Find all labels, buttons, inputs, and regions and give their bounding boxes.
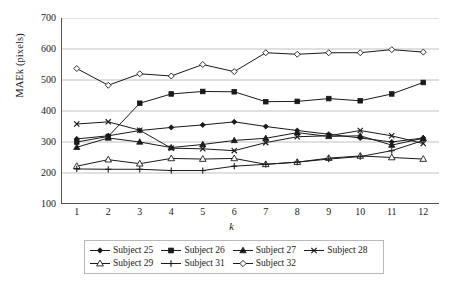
data-point-marker	[231, 163, 237, 169]
legend-item-label: Subject 29	[113, 258, 153, 269]
data-point-marker	[389, 148, 395, 154]
data-point-marker	[389, 47, 395, 53]
x-tick-label: 1	[65, 206, 89, 217]
legend-item-label: Subject 28	[327, 245, 367, 256]
data-point-marker	[200, 89, 205, 94]
x-axis-label: k	[0, 221, 463, 232]
data-point-marker	[232, 89, 237, 94]
legend-item[interactable]: Subject 28	[303, 245, 367, 256]
data-point-marker	[169, 92, 174, 97]
legend-marker-plus-icon	[160, 258, 182, 269]
x-tick-label: 8	[285, 206, 309, 217]
legend-marker-open-triangle-icon	[89, 258, 111, 269]
plot-area	[61, 18, 439, 204]
x-tick-label: 3	[128, 206, 152, 217]
chart-figure: MAEk (pixels) k 100200300400500600700 12…	[0, 0, 463, 286]
legend-marker-filled-triangle-icon	[232, 245, 254, 256]
y-axis-label: MAEk (pixels)	[14, 11, 25, 121]
x-tick-label: 4	[159, 206, 183, 217]
data-point-marker	[421, 80, 426, 85]
y-tick-label: 100	[28, 199, 56, 209]
data-point-marker	[263, 99, 268, 104]
data-point-marker	[295, 99, 300, 104]
series-subject-29	[73, 153, 426, 169]
series-line	[77, 122, 424, 151]
x-tick-label: 9	[317, 206, 341, 217]
data-point-marker	[137, 166, 143, 172]
chart-legend: Subject 25Subject 26Subject 27Subject 28…	[84, 240, 384, 274]
legend-marker-filled-square-icon	[160, 245, 182, 256]
data-point-marker	[137, 71, 143, 77]
y-tick-label: 500	[28, 75, 56, 85]
legend-item-label: Subject 27	[256, 245, 296, 256]
data-point-marker	[231, 69, 237, 75]
data-point-marker	[97, 260, 104, 266]
data-point-marker	[326, 50, 332, 56]
data-point-marker	[240, 260, 246, 266]
data-point-marker	[263, 124, 268, 129]
data-point-marker	[263, 50, 269, 56]
x-tick-label: 5	[191, 206, 215, 217]
legend-item-label: Subject 31	[184, 258, 224, 269]
data-point-marker	[105, 166, 111, 172]
series-subject-32	[74, 47, 427, 89]
legend-item[interactable]: Subject 26	[160, 245, 224, 256]
series-subject-26	[74, 80, 425, 144]
data-point-marker	[326, 156, 332, 162]
y-tick-label: 300	[28, 137, 56, 147]
data-point-marker	[358, 98, 363, 103]
legend-marker-cross-x-icon	[303, 245, 325, 256]
data-point-marker	[200, 62, 206, 68]
series-line	[77, 156, 424, 166]
legend-item-label: Subject 25	[113, 245, 153, 256]
x-tick-label: 2	[96, 206, 120, 217]
data-point-marker	[357, 153, 363, 159]
data-point-marker	[168, 155, 175, 161]
data-point-marker	[169, 248, 174, 253]
x-tick-label: 10	[348, 206, 372, 217]
data-point-marker	[326, 96, 331, 101]
data-point-marker	[199, 156, 206, 162]
data-point-marker	[420, 49, 426, 55]
legend-row: Subject 25Subject 26Subject 27Subject 28	[89, 244, 379, 257]
data-point-marker	[294, 51, 300, 57]
x-tick-label: 6	[222, 206, 246, 217]
data-point-marker	[200, 122, 205, 127]
data-point-marker	[389, 92, 394, 97]
data-point-marker	[97, 248, 102, 253]
data-point-marker	[169, 125, 174, 130]
legend-item[interactable]: Subject 31	[160, 258, 224, 269]
legend-row: Subject 29Subject 31Subject 32	[89, 257, 379, 270]
y-tick-label: 200	[28, 168, 56, 178]
data-point-marker	[105, 82, 111, 88]
legend-item[interactable]: Subject 27	[232, 245, 296, 256]
x-tick-label: 7	[254, 206, 278, 217]
y-tick-label: 400	[28, 106, 56, 116]
legend-marker-filled-diamond-icon	[89, 245, 111, 256]
legend-item[interactable]: Subject 25	[89, 245, 153, 256]
data-point-marker	[74, 66, 80, 72]
series-line	[77, 82, 424, 142]
series-subject-31	[74, 137, 427, 173]
series-canvas	[61, 18, 439, 204]
data-point-marker	[168, 260, 174, 266]
data-point-marker	[137, 101, 142, 106]
legend-item[interactable]: Subject 29	[89, 258, 153, 269]
data-point-marker	[232, 119, 237, 124]
legend-marker-open-diamond-icon	[232, 258, 254, 269]
series-line	[77, 140, 424, 170]
x-tick-label: 12	[411, 206, 435, 217]
data-point-marker	[105, 156, 112, 162]
legend-item-label: Subject 32	[256, 258, 296, 269]
series-line	[77, 133, 424, 148]
y-tick-label: 600	[28, 44, 56, 54]
legend-item[interactable]: Subject 32	[232, 258, 296, 269]
y-tick-label: 700	[28, 13, 56, 23]
legend-item-label: Subject 26	[184, 245, 224, 256]
data-point-marker	[168, 73, 174, 79]
x-tick-label: 11	[380, 206, 404, 217]
data-point-marker	[357, 50, 363, 56]
data-point-marker	[231, 155, 238, 161]
